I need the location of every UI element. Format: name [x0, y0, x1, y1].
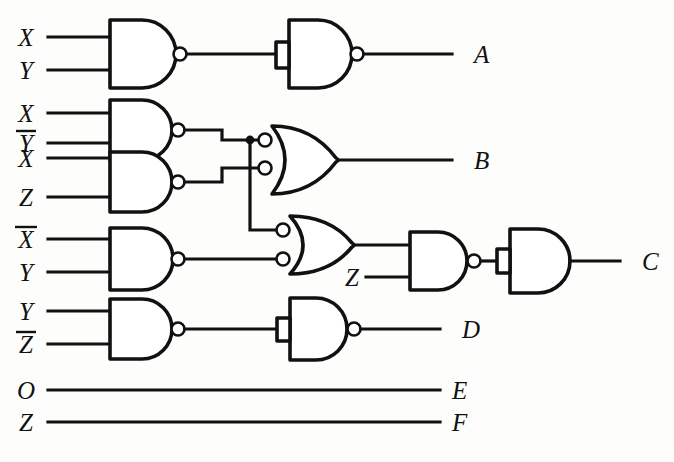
output-label-d: D [461, 316, 480, 343]
input-label-z-1: Z [19, 184, 34, 211]
input-label-xbar: X [17, 226, 35, 253]
inversion-bubble-icon [259, 134, 272, 147]
inversion-bubble-icon [277, 253, 290, 266]
or-gate-b[interactable] [259, 126, 339, 194]
input-label-x-1: X [17, 24, 35, 51]
inversion-bubble-icon [351, 48, 364, 61]
nand-gate-xbar-y[interactable] [110, 228, 185, 290]
inversion-bubble-icon [174, 48, 187, 61]
output-label-e: E [451, 377, 467, 404]
nand-gate-x-z[interactable] [110, 152, 185, 212]
input-label-y-3: Y [19, 298, 36, 325]
inversion-bubble-icon [259, 162, 272, 175]
output-label-f: F [451, 409, 468, 436]
nand-gate-or2-z[interactable] [410, 232, 481, 290]
inline-input-label-group: Z [345, 264, 360, 291]
inversion-bubble-icon [172, 323, 185, 336]
input-label-group: X Y X Y X Z X Y Y Z O Z [15, 24, 37, 436]
inversion-bubble-icon [277, 224, 290, 237]
output-label-c: C [642, 248, 659, 275]
input-label-z-for-c: Z [345, 264, 360, 291]
input-label-y-2: Y [19, 259, 36, 286]
wire-junction-dot [246, 136, 255, 145]
inversion-bubble-icon [172, 253, 185, 266]
inversion-bubble-icon [468, 255, 481, 268]
nand-gate-y-zbar[interactable] [110, 299, 185, 359]
logic-circuit-diagram: X Y X Y X Z X Y Y Z O Z Z A B C D E F [0, 0, 674, 462]
inversion-bubble-icon [172, 124, 185, 137]
inversion-bubble-icon [172, 176, 185, 189]
nand-gate-x-y[interactable] [110, 20, 187, 88]
input-label-x-2: X [17, 100, 35, 127]
circuit-canvas: X Y X Y X Z X Y Y Z O Z Z A B C D E F [0, 0, 674, 462]
nand-inverter-d[interactable] [277, 298, 361, 360]
input-label-z-2: Z [19, 409, 34, 436]
and-buffer-c[interactable] [497, 229, 570, 293]
output-label-b: B [474, 147, 489, 174]
or-gate-c[interactable] [277, 216, 355, 274]
input-label-zbar: Z [19, 331, 34, 358]
output-label-a: A [472, 41, 490, 68]
input-label-x-3: X [17, 145, 35, 172]
input-label-y-1: Y [19, 57, 36, 84]
nand-inverter-a[interactable] [276, 20, 364, 88]
input-label-o: O [17, 377, 35, 404]
inversion-bubble-icon [348, 323, 361, 336]
